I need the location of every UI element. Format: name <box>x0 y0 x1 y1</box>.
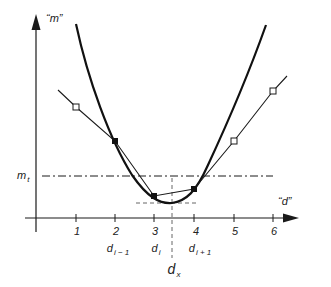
x-axis <box>25 214 299 223</box>
filled-square-marker-icon <box>151 193 157 199</box>
threshold-label-sub: t <box>27 175 29 184</box>
x-tick-label-4: 4 <box>193 226 199 237</box>
filled-square-marker-icon <box>191 186 197 192</box>
d-label-main: d <box>189 242 195 254</box>
dx-label-sub: x <box>176 270 180 279</box>
parabola-fit-diagram <box>0 0 331 287</box>
d-label-main: d <box>107 242 113 254</box>
filled-square-marker-icon <box>112 138 118 144</box>
open-square-marker-icon <box>270 88 276 94</box>
threshold-label: mt <box>17 170 29 184</box>
d-label-sub: i − 1 <box>114 248 129 257</box>
x-tick-label-1: 1 <box>74 226 80 237</box>
x-tick-label-2: 2 <box>113 226 119 237</box>
d-i-minus-1-label: di − 1 <box>107 243 129 257</box>
x-axis-label: “d” <box>278 196 291 207</box>
measured-polyline <box>58 76 287 196</box>
y-axis <box>32 14 41 232</box>
filled-markers <box>112 138 197 199</box>
dx-label: dx <box>168 262 181 279</box>
d-label-sub: i + 1 <box>196 248 211 257</box>
open-square-marker-icon <box>231 138 237 144</box>
d-i-label: di <box>152 243 161 257</box>
y-axis-arrow-icon <box>32 14 41 30</box>
d-i-plus-1-label: di + 1 <box>189 243 211 257</box>
d-label-sub: i <box>159 248 161 257</box>
open-square-marker-icon <box>73 104 79 110</box>
threshold-label-main: m <box>17 169 26 181</box>
d-label-main: d <box>152 242 158 254</box>
x-tick-label-3: 3 <box>152 226 158 237</box>
y-axis-label: “m” <box>46 13 63 24</box>
x-tick-label-5: 5 <box>232 226 238 237</box>
dx-label-main: d <box>168 261 176 277</box>
x-axis-arrow-icon <box>283 214 299 223</box>
x-tick-label-6: 6 <box>271 226 277 237</box>
